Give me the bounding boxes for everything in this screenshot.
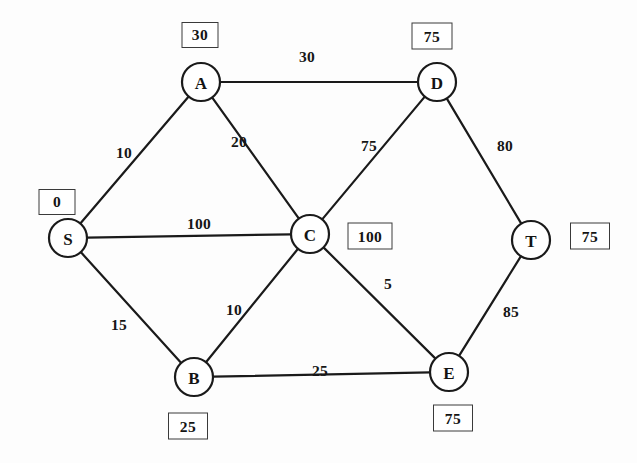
node-label-d: D: [431, 75, 443, 92]
node-label-c: C: [304, 227, 316, 244]
node-label-t: T: [525, 233, 536, 250]
graph-edge: [212, 97, 299, 218]
edge-weight-label: 75: [361, 137, 377, 155]
edge-weight-label: 10: [116, 144, 132, 162]
distance-box-c: 100: [348, 223, 393, 250]
node-label-b: B: [188, 370, 199, 387]
graph-edge: [322, 97, 425, 220]
edge-weight-label: 20: [231, 133, 247, 151]
edge-weight-label: 80: [497, 137, 513, 155]
distance-box-d: 75: [412, 23, 453, 50]
graph-diagram-canvas: ADSCTBE 1030207580100585151025 307501007…: [0, 0, 637, 463]
graph-edge: [81, 252, 181, 363]
node-label-s: S: [63, 231, 72, 248]
edge-weight-label: 5: [384, 275, 392, 293]
edge-weight-label: 85: [503, 303, 519, 321]
edge-weight-label: 10: [226, 301, 242, 319]
distance-box-t: 75: [570, 223, 610, 250]
node-label-a: A: [195, 75, 207, 92]
nodes-layer: [49, 63, 550, 396]
graph-edge: [87, 234, 291, 237]
graph-svg: [0, 0, 637, 463]
distance-box-a: 30: [182, 22, 219, 48]
graph-edge: [206, 249, 298, 362]
distance-box-e: 75: [433, 405, 473, 432]
distance-box-s: 0: [39, 189, 76, 215]
graph-edge: [80, 96, 188, 223]
graph-edge: [447, 98, 522, 223]
graph-edge: [323, 247, 435, 358]
edge-weight-label: 30: [299, 48, 315, 66]
distance-box-b: 25: [168, 413, 208, 440]
edge-weight-label: 15: [111, 316, 127, 334]
edge-weight-label: 25: [312, 362, 328, 380]
edge-weight-label: 100: [187, 215, 211, 233]
node-label-e: E: [443, 365, 454, 382]
